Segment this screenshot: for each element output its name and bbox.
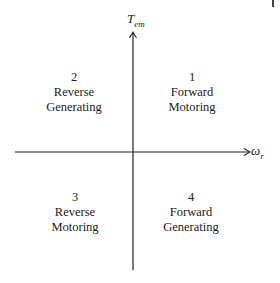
speed-subscript: r bbox=[260, 151, 264, 161]
vertical-axis-label: Tem bbox=[127, 11, 145, 29]
quadrant-label-line1: Reverse bbox=[29, 85, 119, 100]
horizontal-axis-label: ωr bbox=[251, 143, 264, 161]
quadrant-label-line1: Forward bbox=[146, 205, 236, 220]
quadrant-2: 2 Reverse Generating bbox=[29, 70, 119, 115]
quadrant-3: 3 Reverse Motoring bbox=[30, 190, 120, 235]
quadrant-number: 2 bbox=[29, 70, 119, 85]
quadrant-number: 3 bbox=[30, 190, 120, 205]
quadrant-label-line1: Reverse bbox=[30, 205, 120, 220]
quadrant-label-line2: Generating bbox=[29, 100, 119, 115]
torque-subscript: em bbox=[134, 19, 145, 29]
quadrant-4: 4 Forward Generating bbox=[146, 190, 236, 235]
speed-symbol: ω bbox=[251, 143, 260, 158]
quadrant-label-line2: Generating bbox=[146, 220, 236, 235]
quadrant-number: 4 bbox=[146, 190, 236, 205]
quadrant-label-line2: Motoring bbox=[147, 100, 237, 115]
quadrant-number: 1 bbox=[147, 70, 237, 85]
quadrant-label-line1: Forward bbox=[147, 85, 237, 100]
quadrant-1: 1 Forward Motoring bbox=[147, 70, 237, 115]
axes bbox=[0, 0, 280, 283]
quadrant-label-line2: Motoring bbox=[30, 220, 120, 235]
